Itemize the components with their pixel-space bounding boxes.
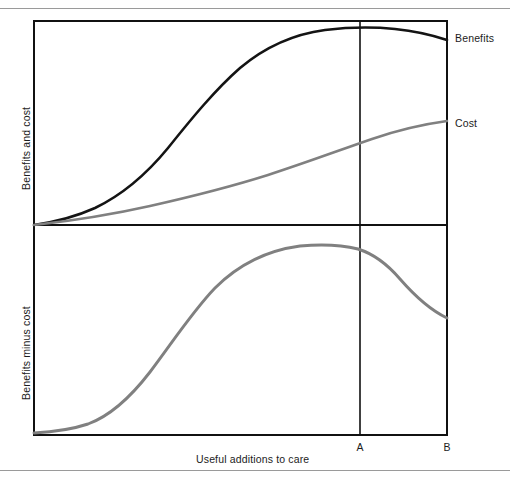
- y-axis-label-top-panel: Benefits and cost: [20, 107, 32, 190]
- y-axis-label-bottom-panel: Benefits minus cost: [20, 306, 32, 400]
- plot-frames: [34, 21, 447, 435]
- series-label-benefits: Benefits: [455, 32, 494, 44]
- x-axis-label: Useful additions to care: [196, 453, 309, 465]
- top-panel-series: [34, 28, 447, 225]
- chart-canvas: [0, 0, 510, 481]
- series-label-cost: Cost: [455, 117, 477, 129]
- x-tick-label-b: B: [440, 441, 454, 453]
- benefits-curve: [34, 28, 447, 225]
- outer-plot-frame: [34, 21, 447, 435]
- x-tick-label-a: A: [353, 441, 367, 453]
- net-benefit-curve: [34, 245, 447, 433]
- bottom-panel-series: [34, 245, 447, 433]
- cost-curve: [34, 121, 447, 225]
- figure-root: Benefits and cost Benefits minus cost Us…: [0, 0, 510, 481]
